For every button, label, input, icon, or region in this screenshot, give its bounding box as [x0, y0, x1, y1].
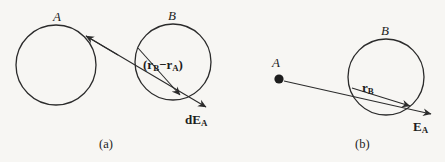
dE-subscript: A: [201, 118, 207, 128]
panel-a-separation-vector-label: (rB−rA): [143, 58, 183, 73]
paren-close: ): [179, 57, 183, 72]
panel-b-field-label: EA: [413, 120, 428, 135]
panel-b-caption: (b): [355, 138, 370, 151]
panel-b-field-line: [284, 81, 431, 114]
panel-b-point-a-label: A: [272, 56, 280, 69]
panel-a-circle-a-label: A: [53, 10, 61, 23]
panel-b-position-vector-label: rB: [362, 81, 374, 96]
panel-b-circle-b-label: B: [381, 24, 389, 37]
panel-a-circle-b-label: B: [168, 9, 176, 22]
E-subscript: A: [422, 125, 428, 135]
panel-a-caption: (a): [99, 138, 113, 151]
E-symbol: E: [413, 119, 422, 134]
r-subscript: B: [368, 86, 374, 96]
dE-symbol: dE: [185, 112, 201, 127]
figure-vector-layer: [0, 0, 445, 162]
panel-b-point-a-dot: [274, 74, 283, 83]
panel-a-circle-a: [16, 25, 96, 105]
panel-a-field-label: dEA: [185, 113, 207, 128]
physics-figure: A B (rB−rA) dEA (a) A B rB EA (b): [0, 0, 445, 162]
